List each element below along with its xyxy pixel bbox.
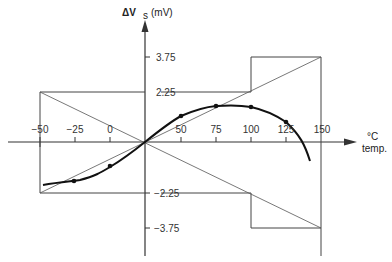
y-tick-label: −3.75 (154, 223, 180, 234)
y-tick-label: 2.25 (156, 87, 176, 98)
y-axis-title: ΔV (122, 7, 136, 18)
chart-canvas: 3.75 2.25 −2.25 −3.75 −50 −25 0 50 75 10… (0, 0, 392, 262)
x-tick-label: 0 (107, 124, 113, 135)
diagonal-line-negative (40, 92, 321, 228)
limit-box-right (251, 57, 321, 256)
x-tick-label: −50 (32, 124, 49, 135)
x-axis-title: temp. (362, 143, 387, 154)
x-tick-label: 125 (278, 124, 295, 135)
y-axis-arrow-icon (142, 20, 149, 32)
x-tick-label: 150 (314, 124, 331, 135)
y-axis-unit: (mV) (151, 7, 173, 18)
x-tick-label: −25 (67, 124, 84, 135)
x-tick-label: 50 (175, 124, 187, 135)
data-curve (43, 105, 310, 185)
x-axis-unit: °C (367, 131, 378, 142)
y-tick-label: −2.25 (154, 188, 180, 199)
x-tick-label: 100 (243, 124, 260, 135)
x-tick-label: 75 (210, 124, 222, 135)
y-tick-label: 3.75 (156, 52, 176, 63)
y-axis-subscript: s (143, 10, 148, 21)
x-axis-arrow-icon (344, 139, 357, 146)
